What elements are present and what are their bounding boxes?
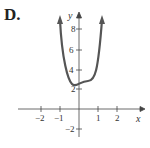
svg-text:8: 8 [71,24,76,34]
svg-text:y: y [67,10,73,21]
svg-text:1: 1 [96,113,101,123]
graph: −2 −1 1 2 8 6 4 2 −2 y x [0,0,150,148]
x-axis-arrow-icon [140,107,145,112]
svg-text:−2: −2 [65,124,75,134]
y-axis-arrow-icon [77,12,82,18]
curve [60,20,102,85]
svg-text:x: x [135,113,141,124]
svg-text:−2: −2 [35,113,45,123]
svg-text:4: 4 [69,65,74,75]
curve-arrow-right-icon [99,15,105,24]
curve-arrow-left-icon [57,15,63,24]
svg-text:−1: −1 [54,113,64,123]
svg-text:6: 6 [69,45,74,55]
svg-text:2: 2 [115,113,120,123]
